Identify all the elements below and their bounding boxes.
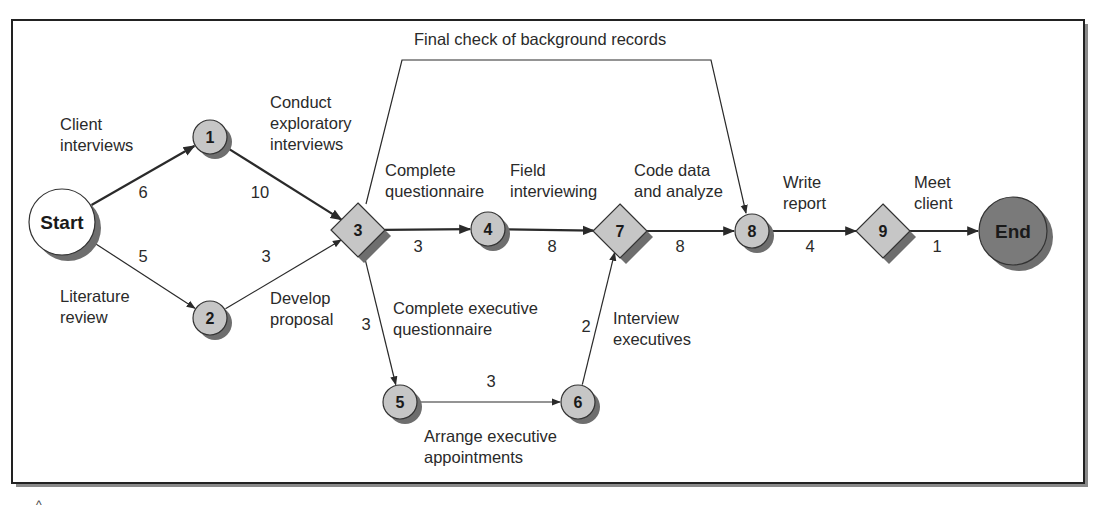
edge-4-7	[506, 229, 593, 230]
node-label: 1	[206, 129, 215, 146]
project-network-diagram: 6Clientinterviews5Literaturereview10Cond…	[0, 0, 1093, 516]
node-label: 5	[396, 394, 405, 411]
edge-duration: 4	[805, 237, 814, 255]
edge-duration: 2	[581, 317, 590, 335]
edge-duration: 1	[932, 237, 941, 255]
node-label: 3	[354, 222, 363, 239]
edge-duration: 3	[361, 315, 370, 333]
network-diagram-canvas: 6Clientinterviews5Literaturereview10Cond…	[0, 0, 1093, 516]
corner-mark-icon: ^	[36, 500, 46, 510]
node-label: 8	[748, 223, 757, 240]
edge-duration: 8	[675, 237, 684, 255]
edge-duration: 5	[138, 247, 147, 265]
edge-duration: 6	[138, 183, 147, 201]
node-label: 4	[484, 221, 493, 238]
edge-duration: 3	[261, 247, 270, 265]
edge-duration: 3	[486, 372, 495, 390]
node-label: 9	[879, 223, 888, 240]
node-label: Start	[40, 212, 84, 233]
node-label: End	[995, 221, 1031, 242]
node-label: 6	[574, 394, 583, 411]
node-label: 7	[616, 223, 625, 240]
edge-3-4	[385, 229, 470, 230]
activity-label: Final check of background records	[414, 30, 666, 48]
edge-duration: 8	[547, 237, 556, 255]
node-label: 2	[206, 310, 215, 327]
edge-duration: 10	[251, 183, 269, 201]
edge-duration: 3	[413, 237, 422, 255]
